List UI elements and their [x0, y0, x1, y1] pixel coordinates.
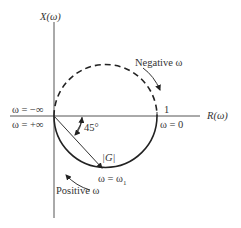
negative-omega-label: Negative ω	[135, 58, 182, 69]
positive-omega-label: Positive ω	[56, 186, 99, 197]
angle-label: 45°	[84, 123, 99, 134]
negative-omega-semicircle	[54, 64, 157, 116]
angle-arc	[75, 117, 82, 135]
omega-one-text: ω = ω	[98, 173, 123, 184]
omega-neg-inf-label: ω = −∞	[12, 105, 44, 116]
real-axis-label: R(ω)	[207, 111, 228, 122]
omega-one-subscript: 1	[123, 179, 127, 187]
omega-zero-label: ω = 0	[160, 120, 183, 131]
omega-one-label: ω = ω1	[98, 174, 127, 187]
unit-label: 1	[164, 105, 169, 116]
negative-omega-arrow	[143, 68, 160, 90]
polar-plot-diagram: X(ω) R(ω) ω = −∞ ω = +∞ 1 ω = 0 45° |G| …	[0, 0, 241, 228]
imaginary-axis-label: X(ω)	[40, 12, 61, 23]
magnitude-label: |G|	[102, 153, 115, 164]
omega-pos-inf-label: ω = +∞	[12, 120, 44, 131]
